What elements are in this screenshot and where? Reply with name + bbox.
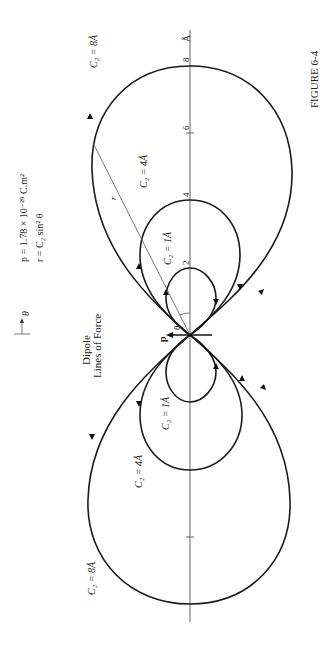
axis-unit-label: Å [181, 35, 192, 42]
figure-caption: FIGURE 6-4 [308, 51, 320, 108]
axis-tick-label-4: 4 [181, 193, 191, 198]
dipole-label: p [157, 336, 168, 342]
curve-label-lower-c1: C₂ = 1Å [160, 397, 171, 430]
axis-tick-label-2: 2 [181, 261, 191, 266]
theta-reference-arrow-icon [20, 318, 24, 323]
axis-tick-label-8: 8 [181, 58, 191, 63]
axis-tick-label-6: 6 [181, 126, 191, 131]
curve-label-upper-c4: C₂ = 4Å [138, 155, 149, 188]
angle-label: θ [172, 326, 182, 330]
dipole-field-diagram [0, 0, 320, 668]
equation-r: r = C₂ sin² θ [34, 213, 45, 262]
curve-label-upper-c8: C₂ = 8Å [88, 35, 99, 68]
curve-label-lower-c4: C₂ = 4Å [133, 455, 144, 488]
field-line-lower-c1 [166, 335, 216, 402]
direction-arrows [87, 113, 266, 440]
title-line-2: Lines of Force [91, 314, 103, 378]
curve-label-upper-c1: C₂ = 1Å [162, 232, 173, 265]
equation-p: p = 1.78 × 10⁻²⁹ C.m² [18, 174, 29, 262]
angle-arc [180, 313, 190, 315]
curve-label-lower-c8: C₂ = 8Å [86, 562, 97, 595]
theta-symbol: θ [20, 311, 31, 316]
radius-label: r [108, 196, 118, 200]
